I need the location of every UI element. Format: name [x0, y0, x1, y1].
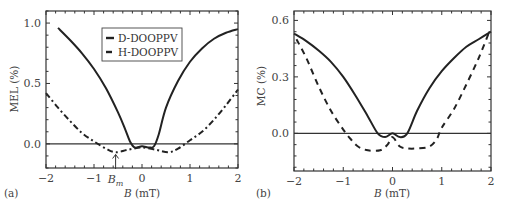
- series-d-dooppv: [294, 32, 491, 137]
- y-tick-label: 0.0: [24, 138, 42, 151]
- legend-entry-h-dooppv: H-DOOPPV: [118, 46, 178, 58]
- plot-frame-b: [294, 11, 491, 171]
- x-tick-label: −2: [38, 172, 54, 185]
- x-axis-label-a: B (mT): [123, 187, 160, 199]
- y-axis-label-a: MEL (%): [8, 66, 20, 113]
- legend-a: D-DOOPPV H-DOOPPV: [102, 28, 182, 61]
- figure: −2−10120.00.51.0 MEL (%) B (mT) (a) Bm D…: [0, 0, 507, 210]
- legend-entry-d-dooppv: D-DOOPPV: [118, 32, 178, 44]
- x-tick-label: 2: [488, 175, 495, 188]
- x-axis-var-a: B: [123, 187, 132, 199]
- x-tick-label: −1: [86, 172, 102, 185]
- panel-label-b: (b): [256, 187, 271, 199]
- x-axis-unit-a: (mT): [132, 187, 161, 199]
- y-axis-label-b: MC (%): [255, 66, 267, 106]
- panel-b-mc-chart: −2−10120.00.30.6 MC (%) B (mT) (b): [255, 11, 495, 199]
- x-axis-var-b: B: [373, 187, 382, 199]
- x-axis-label-b: B (mT): [373, 187, 410, 199]
- x-tick-label: 1: [187, 172, 194, 185]
- y-tick-label: 0.0: [272, 127, 290, 140]
- x-axis-unit-b: (mT): [382, 187, 411, 199]
- y-tick-label: 0.6: [272, 14, 290, 27]
- y-tick-label: 1.0: [24, 17, 42, 30]
- bm-sub: m: [116, 179, 124, 188]
- x-tick-label: 1: [438, 175, 445, 188]
- x-tick-label: −1: [335, 175, 351, 188]
- bm-label: Bm: [107, 173, 124, 188]
- axis-ticks-b: [294, 11, 491, 171]
- bm-main: B: [107, 173, 116, 186]
- bm-annotation: Bm: [107, 155, 124, 188]
- panel-a-mel-chart: −2−10120.00.51.0 MEL (%) B (mT) (a) Bm D…: [4, 11, 242, 199]
- panel-label-a: (a): [4, 187, 18, 199]
- plot-area-b: [294, 32, 491, 151]
- x-tick-label: 0: [139, 172, 146, 185]
- x-tick-label: 2: [235, 172, 242, 185]
- y-tick-label: 0.5: [24, 77, 42, 90]
- series-h-dooppv: [46, 90, 238, 153]
- y-tick-label: 0.3: [272, 71, 290, 84]
- x-tick-label: −2: [286, 175, 302, 188]
